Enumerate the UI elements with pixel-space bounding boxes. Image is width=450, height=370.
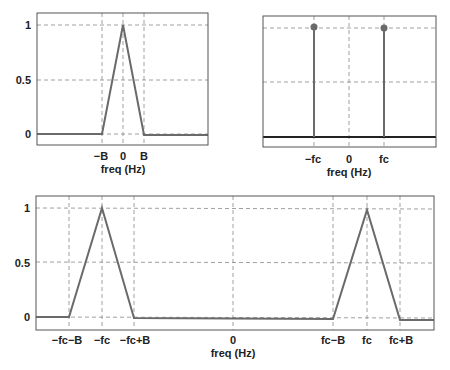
grid-line (36, 208, 434, 209)
x-tick: −fc (305, 153, 321, 165)
x-tick: −B (94, 150, 108, 162)
x-tick: fc−B (321, 334, 345, 346)
plot-carrier-impulses: −fc 0 fc freq (Hz) (263, 16, 436, 178)
x-tick: −fc−B (52, 334, 83, 346)
stem-marker (381, 25, 388, 32)
y-tick: 1 (25, 19, 31, 31)
x-tick: 0 (120, 150, 126, 162)
y-tick: 0 (24, 311, 30, 323)
grid-line (36, 262, 434, 263)
y-tick: 0 (25, 128, 31, 140)
x-tick: −fc+B (120, 334, 151, 346)
x-tick: fc (379, 153, 389, 165)
x-axis-label: freq (Hz) (211, 347, 256, 359)
x-tick: fc+B (389, 334, 413, 346)
x-tick: 0 (346, 153, 352, 165)
y-tick: 0.5 (15, 257, 30, 269)
x-tick: 0 (230, 334, 236, 346)
x-tick: −fc (94, 334, 110, 346)
x-axis-label: freq (Hz) (327, 166, 372, 178)
y-tick: 1 (24, 202, 30, 214)
modulated-curve (36, 208, 434, 320)
plot-baseband-spectrum: 1 0.5 0 −B 0 B freq (Hz) (16, 13, 208, 175)
axes-frame (263, 16, 436, 147)
x-tick: fc (362, 334, 372, 346)
stem-marker (311, 24, 318, 31)
x-tick: B (140, 150, 148, 162)
figure: 1 0.5 0 −B 0 B freq (Hz) −fc 0 fc freq (… (0, 0, 450, 370)
y-tick: 0.5 (16, 74, 31, 86)
plot-modulated-spectrum: 1 0.5 0 −fc−B −fc −fc+B 0 fc−B fc fc+B f… (15, 196, 434, 359)
x-axis-label: freq (Hz) (101, 163, 146, 175)
